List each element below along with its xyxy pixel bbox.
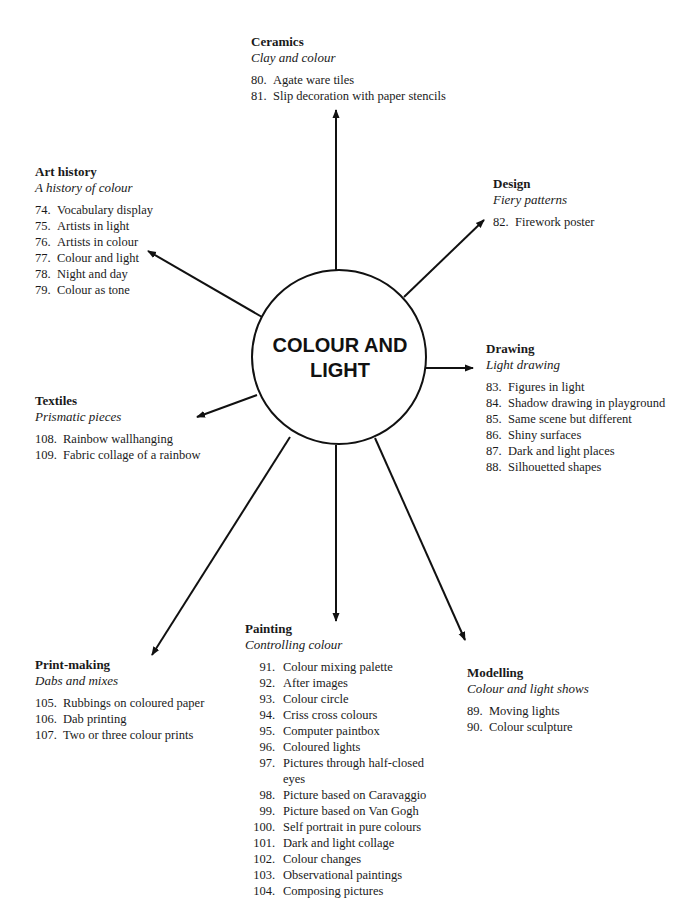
item-number: 98. (245, 787, 283, 803)
item-text: After images (283, 675, 435, 691)
list-item: 84.Shadow drawing in playground (486, 395, 665, 411)
item-number: 101. (245, 835, 283, 851)
list-item: 94.Criss cross colours (245, 707, 435, 723)
list-item: 103.Observational paintings (245, 867, 435, 883)
item-text: Picture based on Caravaggio (283, 787, 435, 803)
arrow-modelling (375, 438, 465, 640)
list-item: 105.Rubbings on coloured paper (35, 695, 204, 711)
topic-ceramics: Ceramics Clay and colour 80.Agate ware t… (251, 34, 446, 104)
item-number: 109. (35, 447, 63, 463)
item-number: 90. (467, 719, 489, 735)
item-text: Firework poster (515, 214, 595, 230)
item-text: Coloured lights (283, 739, 435, 755)
item-text: Same scene but different (508, 411, 665, 427)
item-text: Dab printing (63, 711, 204, 727)
item-number: 93. (245, 691, 283, 707)
item-text: Self portrait in pure colours (283, 819, 435, 835)
list-item: 81.Slip decoration with paper stencils (251, 88, 446, 104)
list-item: 93.Colour circle (245, 691, 435, 707)
list-item: 106.Dab printing (35, 711, 204, 727)
item-number: 85. (486, 411, 508, 427)
item-text: Dark and light collage (283, 835, 435, 851)
item-text: Composing pictures (283, 883, 435, 899)
item-text: Two or three colour prints (63, 727, 204, 743)
item-number: 76. (35, 234, 57, 250)
arrow-art-history (148, 251, 262, 317)
topic-subtitle: Controlling colour (245, 637, 435, 653)
item-number: 99. (245, 803, 283, 819)
item-text: Colour changes (283, 851, 435, 867)
list-item: 88.Silhouetted shapes (486, 459, 665, 475)
item-text: Slip decoration with paper stencils (273, 88, 446, 104)
list-item: 95.Computer paintbox (245, 723, 435, 739)
list-item: 90.Colour sculpture (467, 719, 589, 735)
item-text: Agate ware tiles (273, 72, 446, 88)
list-item: 76.Artists in colour (35, 234, 153, 250)
central-topic-label: COLOUR AND LIGHT (252, 270, 428, 446)
list-item: 74.Vocabulary display (35, 202, 153, 218)
item-text: Moving lights (489, 703, 589, 719)
topic-title: Art history (35, 164, 153, 180)
item-text: Shadow drawing in playground (508, 395, 665, 411)
item-number: 92. (245, 675, 283, 691)
item-text: Vocabulary display (57, 202, 153, 218)
item-text: Colour circle (283, 691, 435, 707)
item-text: Shiny surfaces (508, 427, 665, 443)
item-text: Picture based on Van Gogh (283, 803, 435, 819)
topic-design: Design Fiery patterns 82.Firework poster (493, 176, 595, 230)
topic-subtitle: Colour and light shows (467, 681, 589, 697)
item-number: 81. (251, 88, 273, 104)
list-item: 75.Artists in light (35, 218, 153, 234)
topic-painting: Painting Controlling colour 91.Colour mi… (245, 621, 435, 899)
item-number: 104. (245, 883, 283, 899)
topic-subtitle: Fiery patterns (493, 192, 595, 208)
topic-subtitle: A history of colour (35, 180, 153, 196)
list-item: 104.Composing pictures (245, 883, 435, 899)
item-text: Colour as tone (57, 282, 153, 298)
item-number: 87. (486, 443, 508, 459)
list-item: 107.Two or three colour prints (35, 727, 204, 743)
item-number: 103. (245, 867, 283, 883)
topic-subtitle: Clay and colour (251, 50, 446, 66)
topic-print-making: Print-making Dabs and mixes 105.Rubbings… (35, 657, 204, 743)
list-item: 97.Pictures through half-closed eyes (245, 755, 435, 787)
list-item: 99.Picture based on Van Gogh (245, 803, 435, 819)
list-item: 102.Colour changes (245, 851, 435, 867)
item-number: 105. (35, 695, 63, 711)
list-item: 101.Dark and light collage (245, 835, 435, 851)
list-item: 82.Firework poster (493, 214, 595, 230)
list-item: 100.Self portrait in pure colours (245, 819, 435, 835)
topic-modelling: Modelling Colour and light shows 89.Movi… (467, 665, 589, 735)
item-text: Pictures through half-closed eyes (283, 755, 435, 787)
topic-drawing: Drawing Light drawing 83.Figures in ligh… (486, 341, 665, 475)
list-item: 83.Figures in light (486, 379, 665, 395)
item-number: 95. (245, 723, 283, 739)
item-number: 75. (35, 218, 57, 234)
item-text: Dark and light places (508, 443, 665, 459)
topic-title: Modelling (467, 665, 589, 681)
item-number: 86. (486, 427, 508, 443)
item-number: 88. (486, 459, 508, 475)
item-text: Observational paintings (283, 867, 435, 883)
item-number: 97. (245, 755, 283, 787)
topic-art-history: Art history A history of colour 74.Vocab… (35, 164, 153, 298)
topic-title: Drawing (486, 341, 665, 357)
list-item: 92.After images (245, 675, 435, 691)
item-number: 91. (245, 659, 283, 675)
topic-title: Design (493, 176, 595, 192)
topic-subtitle: Light drawing (486, 357, 665, 373)
item-text: Computer paintbox (283, 723, 435, 739)
topic-title: Ceramics (251, 34, 446, 50)
item-number: 102. (245, 851, 283, 867)
list-item: 77.Colour and light (35, 250, 153, 266)
item-number: 89. (467, 703, 489, 719)
item-number: 94. (245, 707, 283, 723)
topic-title: Textiles (35, 393, 200, 409)
item-text: Silhouetted shapes (508, 459, 665, 475)
item-number: 82. (493, 214, 515, 230)
item-text: Artists in colour (57, 234, 153, 250)
item-number: 106. (35, 711, 63, 727)
list-item: 79.Colour as tone (35, 282, 153, 298)
item-number: 108. (35, 431, 63, 447)
list-item: 96.Coloured lights (245, 739, 435, 755)
